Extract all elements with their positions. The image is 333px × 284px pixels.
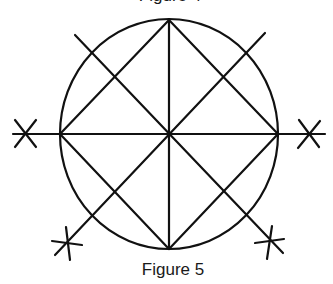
construction-drawing <box>0 0 333 284</box>
diagonal-line-1 <box>75 35 283 253</box>
geometric-construction-figure: Figure 4 <box>0 0 333 284</box>
diagonal-line-2 <box>55 33 265 255</box>
figure-5-caption: Figure 5 <box>142 260 204 280</box>
figure-4-caption: Figure 4 <box>139 0 201 6</box>
bottom-right-star-mark-icon <box>255 226 284 259</box>
